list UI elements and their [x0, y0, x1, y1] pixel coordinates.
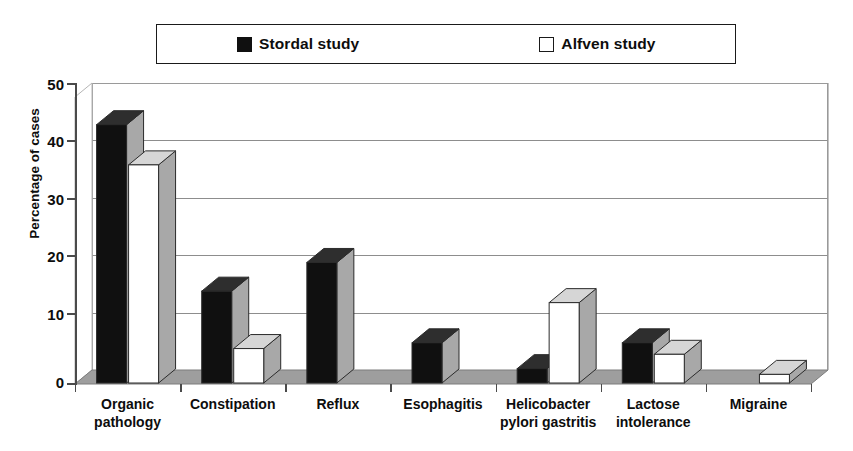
x-tick-6: [706, 384, 707, 392]
x-tick-1: [180, 384, 181, 392]
x-tick-0: [75, 384, 76, 392]
x-axis-label-0-line-1: pathology: [58, 414, 198, 432]
x-tick-5: [601, 384, 602, 392]
bar-3-stordal: [412, 329, 459, 383]
x-axis-label-5-line-1: intolerance: [583, 414, 723, 432]
bar-chart: Stordal study Alfven study Percentage of…: [0, 0, 853, 451]
bar-6-alfven: [759, 360, 806, 383]
bar-0-alfven: [129, 151, 176, 383]
bars-layer: [0, 0, 853, 451]
x-axis-label-6: Migraine: [688, 396, 828, 414]
bar-4-alfven: [549, 289, 596, 383]
x-axis-label-6-line-0: Migraine: [688, 396, 828, 414]
x-tick-4: [496, 384, 497, 392]
x-tick-3: [390, 384, 391, 392]
x-tick-2: [285, 384, 286, 392]
x-tick-7: [811, 384, 812, 392]
bar-2-stordal: [307, 248, 354, 383]
